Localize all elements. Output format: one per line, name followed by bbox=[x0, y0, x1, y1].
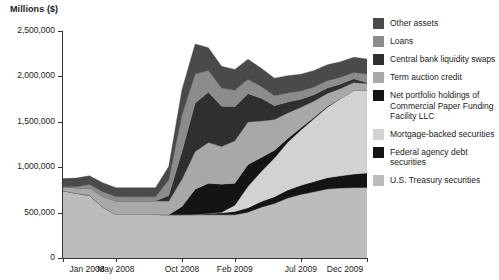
x-axis-tick bbox=[63, 258, 64, 262]
legend-item[interactable]: Mortgage-backed securities bbox=[373, 129, 497, 140]
x-axis-tick bbox=[116, 258, 117, 262]
x-axis-line bbox=[62, 258, 368, 259]
legend-item-label: Other assets bbox=[390, 18, 438, 29]
legend-item-label: Mortgage-backed securities bbox=[390, 129, 494, 140]
legend-swatch-icon bbox=[373, 18, 384, 29]
legend-swatch-icon bbox=[373, 147, 384, 158]
legend-swatch-icon bbox=[373, 129, 384, 140]
legend-item[interactable]: Net portfolio holdings of Commercial Pap… bbox=[373, 90, 497, 122]
legend-item[interactable]: Other assets bbox=[373, 18, 497, 29]
y-axis-title: Millions ($) bbox=[10, 4, 58, 14]
x-axis-tick-label: Oct 2008 bbox=[165, 264, 200, 274]
legend-swatch-icon bbox=[373, 54, 384, 65]
stacked-area-svg bbox=[63, 31, 367, 258]
x-axis-tick bbox=[367, 258, 368, 262]
legend-item[interactable]: U.S. Treasury securities bbox=[373, 175, 497, 186]
legend-swatch-icon bbox=[373, 175, 384, 186]
y-axis-tick bbox=[58, 122, 63, 123]
x-axis-tick bbox=[235, 258, 236, 262]
legend-swatch-icon bbox=[373, 90, 384, 101]
chart-page: Millions ($) 0500,0001,000,0001,500,0002… bbox=[0, 0, 499, 280]
x-axis-tick-label: Feb 2009 bbox=[217, 264, 253, 274]
y-axis-tick-label: 1,500,000 bbox=[17, 117, 55, 126]
y-axis-tick bbox=[58, 31, 63, 32]
legend-item-label: Term auction credit bbox=[390, 72, 462, 83]
legend-item-label: Loans bbox=[390, 36, 413, 47]
y-axis-tick bbox=[58, 76, 63, 77]
x-axis-tick-label: Jul 2009 bbox=[285, 264, 317, 274]
legend-item[interactable]: Central bank liquidity swaps bbox=[373, 54, 497, 65]
chart-legend: Other assetsLoansCentral bank liquidity … bbox=[373, 18, 497, 193]
legend-item[interactable]: Loans bbox=[373, 36, 497, 47]
plot-area bbox=[63, 31, 367, 258]
legend-item-label: Net portfolio holdings of Commercial Pap… bbox=[390, 90, 497, 122]
legend-item-label: Central bank liquidity swaps bbox=[390, 54, 495, 65]
y-axis-tick bbox=[58, 213, 63, 214]
y-axis-tick-label: 1,000,000 bbox=[17, 162, 55, 171]
legend-item-label: U.S. Treasury securities bbox=[390, 175, 480, 186]
y-axis-tick-label: 500,000 bbox=[24, 208, 55, 217]
legend-item-label: Federal agency debt securities bbox=[390, 147, 497, 168]
legend-item[interactable]: Term auction credit bbox=[373, 72, 497, 83]
x-axis-tick-label: Dec 2009 bbox=[327, 264, 363, 274]
y-axis-tick bbox=[58, 167, 63, 168]
x-axis-tick bbox=[182, 258, 183, 262]
legend-swatch-icon bbox=[373, 72, 384, 83]
y-axis-tick-label: 0 bbox=[50, 253, 55, 262]
y-axis-tick-label: 2,000,000 bbox=[17, 71, 55, 80]
legend-item[interactable]: Federal agency debt securities bbox=[373, 147, 497, 168]
y-axis-tick-label: 2,500,000 bbox=[17, 26, 55, 35]
x-axis-tick-label: May 2008 bbox=[97, 264, 134, 274]
legend-swatch-icon bbox=[373, 36, 384, 47]
x-axis-tick bbox=[301, 258, 302, 262]
